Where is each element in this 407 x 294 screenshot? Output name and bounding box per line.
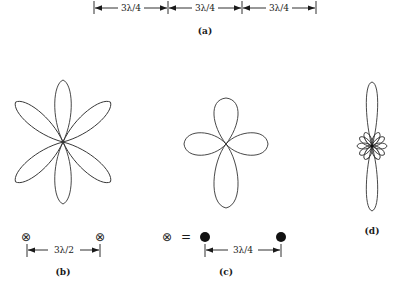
spacing-label-c: 3λ/4 bbox=[233, 245, 253, 255]
element-symbol-b-left: ⊗ bbox=[21, 230, 31, 244]
caption-d: (d) bbox=[365, 226, 380, 236]
antenna-pattern-figure: 3λ/4 3λ/4 3λ/4 (a) ⊗ ⊗ 3λ/2 (b) ⊗ = 3λ/4… bbox=[0, 0, 407, 294]
caption-c: (c) bbox=[219, 267, 233, 277]
element-dot-right bbox=[276, 232, 286, 242]
segment-label-1: 3λ/4 bbox=[121, 3, 141, 13]
element-symbol-c: ⊗ bbox=[162, 230, 172, 244]
element-dot-left bbox=[200, 232, 210, 242]
segment-label-3: 3λ/4 bbox=[269, 3, 289, 13]
radiation-pattern-d bbox=[357, 82, 387, 211]
equals-sign: = bbox=[181, 230, 191, 244]
spacing-label-b: 3λ/2 bbox=[54, 245, 74, 255]
caption-b: (b) bbox=[56, 267, 71, 277]
caption-a: (a) bbox=[198, 26, 212, 36]
segment-label-2: 3λ/4 bbox=[195, 3, 215, 13]
radiation-pattern-c bbox=[184, 98, 268, 208]
element-symbol-b-right: ⊗ bbox=[95, 230, 105, 244]
radiation-pattern-b bbox=[10, 80, 116, 204]
